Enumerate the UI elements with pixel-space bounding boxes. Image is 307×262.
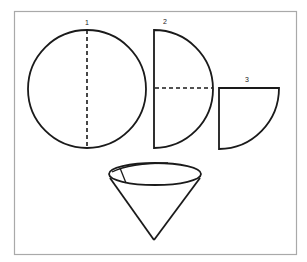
- step-2-label: 2: [163, 18, 167, 25]
- step-1-label: 1: [85, 19, 89, 26]
- diagram-frame: [15, 12, 297, 255]
- folding-diagram: 1 2 3: [0, 0, 307, 262]
- step-3-label: 3: [245, 76, 249, 83]
- step-2-semicircle: 2: [154, 18, 213, 148]
- step-3-quarter-circle: 3: [219, 76, 279, 149]
- step-1-circle: 1: [28, 19, 146, 148]
- result-cone: [109, 163, 201, 240]
